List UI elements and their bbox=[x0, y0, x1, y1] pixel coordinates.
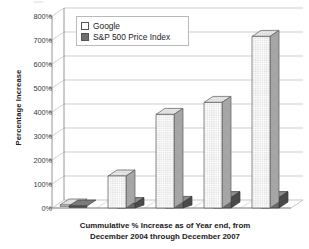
bar-google-2 bbox=[108, 170, 135, 208]
y-tick-label: 0% bbox=[18, 204, 52, 213]
y-tick-label: 800% bbox=[18, 12, 52, 21]
legend-item-google: Google bbox=[81, 20, 184, 31]
legend-label-sp500: S&P 500 Price Index bbox=[93, 32, 170, 42]
chart-legend: Google S&P 500 Price Index bbox=[76, 16, 189, 46]
bar-group-3 bbox=[156, 108, 192, 208]
y-tick-label: 600% bbox=[18, 60, 52, 69]
y-tick-label: 500% bbox=[18, 84, 52, 93]
bar-google-4 bbox=[204, 96, 231, 208]
y-tick-label: 300% bbox=[18, 132, 52, 141]
bar-google-3 bbox=[156, 108, 183, 208]
x-axis-caption-line2: December 2004 through December 2007 bbox=[34, 232, 296, 243]
y-tick-label: 200% bbox=[18, 156, 52, 165]
y-tick-label: 700% bbox=[18, 36, 52, 45]
y-axis-title: Percentage Increase bbox=[14, 43, 23, 173]
bar-group-5 bbox=[252, 30, 288, 208]
bar-google-5 bbox=[252, 30, 279, 208]
x-axis-caption-line1: Cummulative % Increase as of Year end, f… bbox=[34, 221, 296, 232]
legend-label-google: Google bbox=[93, 21, 120, 31]
y-tick-label: 100% bbox=[18, 180, 52, 189]
legend-item-sp500: S&P 500 Price Index bbox=[81, 31, 184, 42]
chart-container: 800% 700% 600% 500% 400% 300% 200% 100% … bbox=[0, 0, 309, 249]
legend-swatch-sp500-icon bbox=[81, 33, 89, 41]
x-axis-caption: Cummulative % Increase as of Year end, f… bbox=[34, 221, 296, 242]
legend-swatch-google-icon bbox=[81, 22, 89, 30]
y-tick-label: 400% bbox=[18, 108, 52, 117]
